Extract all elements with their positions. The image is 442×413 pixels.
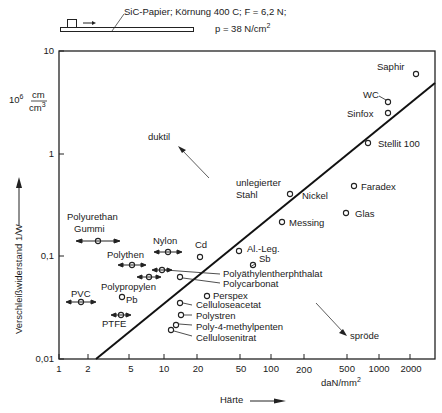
svg-text:Polythen: Polythen bbox=[107, 249, 144, 260]
point-messing bbox=[279, 219, 284, 224]
y-tick-label: 10 bbox=[43, 45, 54, 56]
svg-text:Nickel: Nickel bbox=[302, 190, 328, 201]
svg-text:Gummi: Gummi bbox=[74, 223, 105, 234]
point-poly-4-methylpenten bbox=[173, 322, 178, 327]
point-glas bbox=[343, 210, 348, 215]
svg-text:Polystren: Polystren bbox=[196, 310, 236, 321]
svg-text:Celluloseacetat: Celluloseacetat bbox=[196, 299, 261, 310]
x-axis-arrow-icon bbox=[250, 399, 286, 404]
y-tick-label: 0,1 bbox=[41, 250, 54, 261]
svg-text:Cd: Cd bbox=[195, 239, 207, 250]
point-pb bbox=[119, 294, 124, 299]
point-faradex bbox=[351, 183, 356, 188]
duktil-arrow-icon bbox=[178, 146, 209, 178]
wear-resistance-chart: SiC-Papier; Körnung 400 C; F = 6,2 N; p … bbox=[0, 0, 442, 413]
point-saphir bbox=[413, 71, 418, 76]
annotation-duktil: duktil bbox=[148, 131, 170, 142]
x-tick-label: 1 bbox=[56, 363, 61, 374]
x-tick-label: 2 bbox=[85, 363, 90, 374]
point-polystren bbox=[178, 312, 183, 317]
svg-text:Polycarbonat: Polycarbonat bbox=[223, 278, 279, 289]
x-tick-label: 5 bbox=[128, 363, 133, 374]
svg-text:Pb: Pb bbox=[126, 294, 138, 305]
svg-text:Stellit 100: Stellit 100 bbox=[378, 138, 420, 149]
x-tick-label: 500 bbox=[339, 363, 355, 374]
svg-text:Sb: Sb bbox=[259, 253, 271, 264]
x-tick-label: 1000 bbox=[368, 363, 389, 374]
x-tick-label: 10 bbox=[159, 363, 170, 374]
svg-text:Saphir: Saphir bbox=[377, 61, 404, 72]
svg-text:Messing: Messing bbox=[289, 217, 324, 228]
x-axis: 1 2 5 10 20 50 100 200 500 1000 2000 bbox=[56, 354, 421, 375]
x-tick-label: 2000 bbox=[400, 363, 421, 374]
x-tick-label: 50 bbox=[236, 363, 247, 374]
svg-text:Faradex: Faradex bbox=[361, 181, 396, 192]
point-celluloseacetat bbox=[177, 300, 182, 305]
svg-text:Polyurethan: Polyurethan bbox=[67, 211, 118, 222]
test-conditions-line1: SiC-Papier; Körnung 400 C; F = 6,2 N; bbox=[124, 6, 286, 17]
svg-text:WC: WC bbox=[363, 89, 379, 100]
point-cellulosenitrat bbox=[168, 327, 173, 332]
y-unit: 106 cm cm3 bbox=[9, 89, 47, 113]
svg-text:Stahl: Stahl bbox=[236, 189, 258, 200]
point-wc bbox=[385, 99, 390, 104]
point-labels: Saphir WC Sinfox Stellit 100 Faradex Gla… bbox=[67, 61, 420, 343]
trend-line bbox=[96, 83, 435, 359]
point-sinfox bbox=[385, 110, 390, 115]
point-perspex bbox=[204, 293, 209, 298]
svg-text:Nylon: Nylon bbox=[153, 235, 177, 246]
svg-text:PTFE: PTFE bbox=[102, 318, 126, 329]
test-conditions-line2: p = 38 N/cm2 bbox=[215, 22, 270, 34]
sproede-arrow-icon bbox=[316, 303, 347, 336]
point-stellit bbox=[365, 140, 370, 145]
x-tick-label: 200 bbox=[296, 364, 312, 375]
svg-text:Glas: Glas bbox=[355, 208, 375, 219]
point-al-leg bbox=[236, 248, 241, 253]
x-tick-label: 20 bbox=[193, 363, 204, 374]
svg-text:Poly-4-methylpenten: Poly-4-methylpenten bbox=[196, 321, 283, 332]
annotation-sproede: spröde bbox=[350, 330, 379, 341]
point-nickel bbox=[287, 191, 292, 196]
svg-text:Sinfox: Sinfox bbox=[347, 108, 374, 119]
point-cd bbox=[197, 254, 202, 259]
svg-text:cm: cm bbox=[32, 89, 45, 100]
y-tick-label: 1 bbox=[49, 148, 54, 159]
y-tick-label: 0,01 bbox=[36, 353, 55, 364]
svg-text:PVC: PVC bbox=[71, 288, 91, 299]
x-unit: daN/mm2 bbox=[321, 376, 361, 388]
y-axis-arrow-icon bbox=[16, 177, 22, 225]
point-polycarbonat bbox=[177, 274, 182, 279]
x-tick-label: 100 bbox=[263, 363, 279, 374]
svg-text:106: 106 bbox=[9, 93, 24, 105]
svg-text:unlegierter: unlegierter bbox=[236, 177, 281, 188]
x-axis-label: Härte bbox=[220, 394, 243, 405]
y-axis-label: Verschleißwiderstand 1/W bbox=[13, 224, 24, 334]
svg-text:cm3: cm3 bbox=[29, 101, 46, 113]
svg-text:Polypropylen: Polypropylen bbox=[101, 281, 156, 292]
svg-text:Cellulosenitrat: Cellulosenitrat bbox=[196, 332, 257, 343]
